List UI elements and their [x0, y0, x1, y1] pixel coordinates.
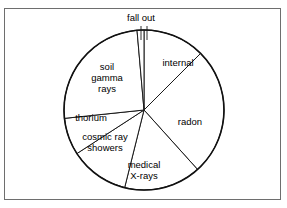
pie-label-internal: internal [162, 57, 193, 68]
pie-label-cosmic-ray-showers: cosmic rayshowers [82, 131, 128, 153]
pie-label-radon: radon [178, 116, 202, 127]
pie-label-medical-x-rays: medicalX-rays [128, 159, 161, 181]
pie-chart-canvas: internalradonmedicalX-rayscosmic rayshow… [0, 0, 287, 208]
pie-label-fall-out: fall out [127, 12, 155, 23]
pie-chart-figure: internalradonmedicalX-rayscosmic rayshow… [0, 0, 287, 208]
pie-label-thorium: thorium [75, 112, 107, 123]
